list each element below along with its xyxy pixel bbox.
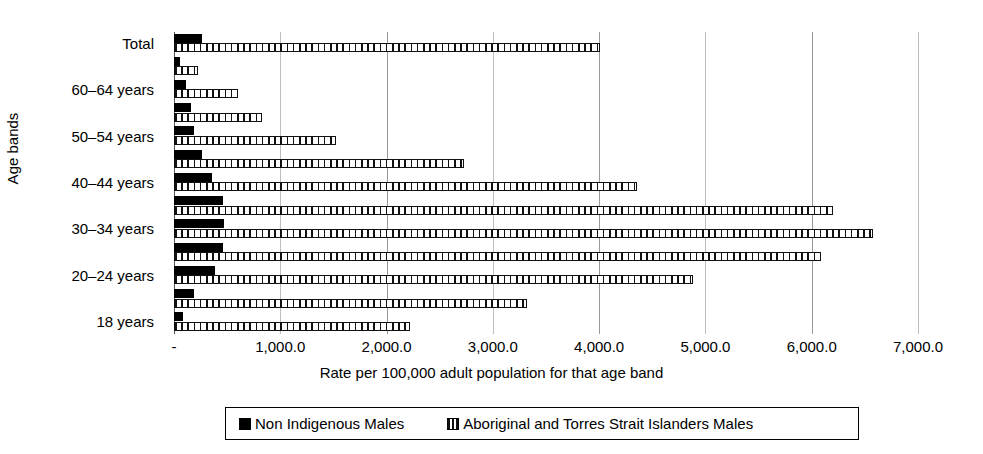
bar-non-indigenous-males — [174, 173, 212, 182]
bar-aboriginal-torres-strait-males — [174, 43, 600, 52]
legend-label: Aboriginal and Torres Strait Islanders M… — [463, 415, 753, 432]
plot-area — [174, 32, 918, 334]
bar-group — [174, 148, 918, 171]
bar-group — [174, 55, 918, 78]
chart-legend: Non Indigenous MalesAboriginal and Torre… — [225, 407, 859, 440]
gridline-7000 — [918, 32, 919, 334]
x-tick-label: - — [172, 338, 177, 355]
x-axis-tick-labels: -1,000.02,000.03,000.04,000.05,000.06,00… — [174, 338, 918, 358]
bar-non-indigenous-males — [174, 34, 202, 43]
x-tick-label: 4,000.0 — [574, 338, 624, 355]
bar-aboriginal-torres-strait-males — [174, 136, 336, 145]
x-axis-title: Rate per 100,000 adult population for th… — [0, 364, 983, 381]
bar-aboriginal-torres-strait-males — [174, 229, 873, 238]
legend-label: Non Indigenous Males — [255, 415, 404, 432]
bar-group — [174, 195, 918, 218]
bar-group — [174, 288, 918, 311]
bar-group — [174, 125, 918, 148]
bar-non-indigenous-males — [174, 266, 215, 275]
y-tick-label: 20–24 years — [71, 268, 154, 283]
legend-entry: Aboriginal and Torres Strait Islanders M… — [447, 415, 753, 432]
bar-group — [174, 311, 918, 334]
bar-non-indigenous-males — [174, 80, 186, 89]
x-tick-label: 5,000.0 — [680, 338, 730, 355]
bar-non-indigenous-males — [174, 289, 194, 298]
bar-non-indigenous-males — [174, 196, 223, 205]
chart-figure: Age bands Total60–64 years50–54 years40–… — [0, 0, 983, 454]
y-tick-label: 30–34 years — [71, 221, 154, 236]
bar-aboriginal-torres-strait-males — [174, 275, 693, 284]
bar-non-indigenous-males — [174, 243, 223, 252]
bar-group — [174, 241, 918, 264]
bar-aboriginal-torres-strait-males — [174, 299, 527, 308]
bar-aboriginal-torres-strait-males — [174, 66, 198, 75]
bar-group — [174, 218, 918, 241]
y-tick-label: 18 years — [96, 314, 154, 329]
x-tick-label: 6,000.0 — [787, 338, 837, 355]
bar-non-indigenous-males — [174, 219, 224, 228]
bar-non-indigenous-males — [174, 57, 180, 66]
y-tick-label: 60–64 years — [71, 82, 154, 97]
bar-group — [174, 264, 918, 287]
y-tick-label: 40–44 years — [71, 175, 154, 190]
bar-aboriginal-torres-strait-males — [174, 206, 833, 215]
bar-non-indigenous-males — [174, 150, 202, 159]
bar-aboriginal-torres-strait-males — [174, 252, 821, 261]
bar-group — [174, 171, 918, 194]
legend-swatch-solid-icon — [239, 418, 251, 430]
legend-swatch-hatch-icon — [447, 418, 459, 430]
y-tick-label: 50–54 years — [71, 129, 154, 144]
y-tick-label: Total — [122, 36, 154, 51]
bar-non-indigenous-males — [174, 312, 183, 321]
x-tick-label: 7,000.0 — [893, 338, 943, 355]
bar-group — [174, 78, 918, 101]
bar-aboriginal-torres-strait-males — [174, 113, 262, 122]
x-tick-label: 2,000.0 — [362, 338, 412, 355]
bar-group — [174, 102, 918, 125]
x-tick-label: 3,000.0 — [468, 338, 518, 355]
bar-group — [174, 32, 918, 55]
bar-aboriginal-torres-strait-males — [174, 159, 464, 168]
bar-aboriginal-torres-strait-males — [174, 182, 637, 191]
y-axis-tick-labels: Total60–64 years50–54 years40–44 years30… — [0, 32, 166, 334]
legend-entry: Non Indigenous Males — [239, 415, 404, 432]
bar-aboriginal-torres-strait-males — [174, 89, 238, 98]
bar-aboriginal-torres-strait-males — [174, 322, 410, 331]
bar-non-indigenous-males — [174, 126, 194, 135]
x-tick-label: 1,000.0 — [255, 338, 305, 355]
bar-non-indigenous-males — [174, 103, 191, 112]
